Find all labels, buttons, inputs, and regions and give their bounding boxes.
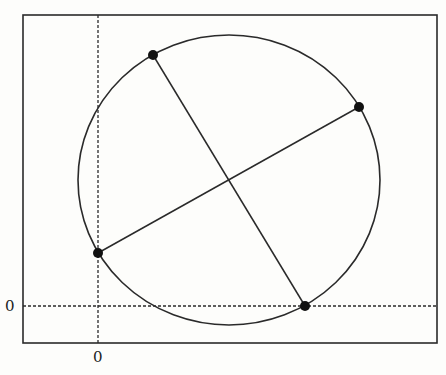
diagram-canvas: 0 0 bbox=[0, 0, 446, 375]
x-zero-label: 0 bbox=[93, 348, 103, 366]
y-zero-label: 0 bbox=[5, 297, 15, 315]
right-point bbox=[354, 102, 364, 112]
chord-left-right bbox=[98, 107, 359, 253]
left-point bbox=[93, 248, 103, 258]
top-point bbox=[148, 50, 158, 60]
bottom-point bbox=[300, 301, 310, 311]
